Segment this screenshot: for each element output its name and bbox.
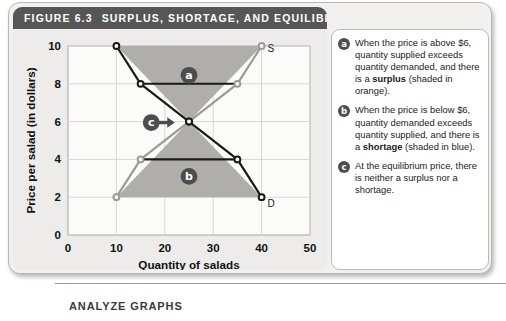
x-tick-label: 50 [304, 242, 317, 254]
y-tick-label: 10 [48, 40, 61, 52]
badge-letter: a [185, 69, 192, 82]
data-point [138, 81, 144, 87]
data-point [259, 43, 265, 49]
callout-item-a: aWhen the price is above $6, quantity su… [338, 37, 481, 97]
analyze-graphs-heading: ANALYZE GRAPHS [69, 300, 183, 312]
y-tick-label: 2 [55, 191, 61, 203]
callout-badge-c: c [338, 161, 350, 173]
region-badge-a: a [181, 67, 198, 84]
figure-title-bar: FIGURE 6.3 SURPLUS, SHORTAGE, AND EQUILI… [13, 7, 327, 29]
callout-badge-a: a [338, 38, 350, 50]
callout-text-b: When the price is below $6, quantity dem… [355, 104, 481, 152]
y-tick-label: 4 [55, 153, 62, 165]
data-point [235, 81, 241, 87]
x-tick-label: 20 [158, 242, 171, 254]
y-tick-label: 6 [55, 116, 61, 128]
callout-text-a: When the price is above $6, quantity sup… [355, 37, 481, 97]
data-point [235, 157, 241, 163]
supply-demand-chart: abcSD024681001020304050Quantity of salad… [13, 29, 327, 270]
bottom-section: ANALYZE GRAPHS [55, 283, 506, 321]
y-axis-ticks: 0246810 [48, 40, 61, 241]
x-axis-ticks: 01020304050 [65, 242, 317, 254]
badge-letter: c [148, 116, 155, 129]
callout-text-c: At the equilibrium price, there is neith… [355, 160, 481, 196]
badge-letter: b [185, 170, 193, 183]
x-tick-label: 40 [255, 242, 268, 254]
data-point [259, 194, 265, 200]
callout-panel: aWhen the price is above $6, quantity su… [331, 29, 489, 270]
y-tick-label: 0 [55, 229, 61, 241]
figure-number: FIGURE 6.3 [24, 12, 93, 24]
callout-badge-b: b [338, 105, 350, 117]
x-axis-title: Quantity of salads [138, 258, 240, 270]
curve-label-S: S [268, 43, 275, 54]
curve-label-D: D [268, 198, 275, 209]
x-tick-label: 30 [207, 242, 220, 254]
data-point [138, 157, 144, 163]
figure-card: FIGURE 6.3 SURPLUS, SHORTAGE, AND EQUILI… [8, 2, 492, 274]
data-point [114, 194, 120, 200]
equilibrium-point [186, 119, 192, 125]
region-badge-b: b [181, 168, 198, 185]
y-tick-label: 8 [55, 78, 62, 90]
figure-title: SURPLUS, SHORTAGE, AND EQUILIBRIUM [102, 12, 327, 24]
callout-item-b: bWhen the price is below $6, quantity de… [338, 104, 481, 152]
x-tick-label: 0 [65, 242, 71, 254]
callout-item-c: cAt the equilibrium price, there is neit… [338, 160, 481, 196]
data-point [114, 43, 120, 49]
chart-panel: abcSD024681001020304050Quantity of salad… [13, 29, 327, 270]
x-tick-label: 10 [110, 242, 123, 254]
figure-title-inner: FIGURE 6.3 SURPLUS, SHORTAGE, AND EQUILI… [13, 12, 327, 24]
y-axis-title: Price per salad (in dollars) [24, 67, 37, 213]
